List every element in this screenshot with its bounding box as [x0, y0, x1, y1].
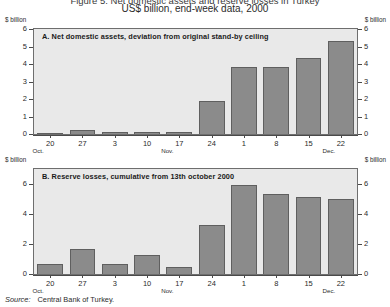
y-tick-label: 3 — [23, 78, 27, 86]
x-tick — [147, 135, 148, 138]
y-tick-label: 4 — [364, 210, 368, 218]
x-tick-label: 17 — [175, 140, 183, 148]
y-tick-label: 0 — [364, 130, 368, 138]
y-tick-label: 0 — [23, 270, 27, 278]
y-tick — [358, 244, 362, 245]
x-tick — [179, 135, 180, 138]
bar — [231, 67, 257, 134]
y-tick — [358, 117, 362, 118]
y-tick — [29, 184, 33, 185]
x-tick — [147, 275, 148, 278]
x-tick-label: 22 — [337, 280, 345, 288]
y-tick-label: 5 — [364, 43, 368, 51]
x-tick-label: 8 — [274, 280, 278, 288]
panel-a-bars — [34, 29, 357, 134]
x-month-label: Oct. — [32, 288, 43, 294]
x-month-label: Nov. — [161, 288, 173, 294]
bar — [199, 225, 225, 275]
y-tick — [29, 214, 33, 215]
y-tick — [29, 64, 33, 65]
x-tick — [244, 275, 245, 278]
source-value: Central Bank of Turkey. — [37, 295, 114, 304]
x-tick-label: 3 — [113, 280, 117, 288]
bar — [263, 67, 289, 134]
x-month-label: Nov. — [161, 148, 173, 154]
x-tick-label: 27 — [78, 280, 86, 288]
panel-b-x-axis: 20273101724181522Oct.Nov.Dec. — [33, 275, 358, 297]
y-tick-label: 2 — [23, 95, 27, 103]
bar — [70, 130, 96, 134]
x-tick — [179, 275, 180, 278]
bar — [70, 249, 96, 274]
y-tick-label: 0 — [364, 270, 368, 278]
panel-a-net-domestic-assets: A. Net domestic assets, deviation from o… — [33, 28, 358, 135]
bar — [102, 264, 128, 275]
x-tick — [115, 135, 116, 138]
x-tick-label: 10 — [143, 140, 151, 148]
bar — [263, 194, 289, 274]
unit-label-b-right: $ billion — [365, 156, 386, 163]
x-tick — [50, 135, 51, 138]
bar — [166, 132, 192, 134]
y-tick-label: 1 — [364, 113, 368, 121]
figure-subtitle: US$ billion, end-week data, 2000 — [0, 3, 390, 14]
panel-b-bars — [34, 169, 357, 274]
bar — [166, 267, 192, 274]
unit-label-b-left: $ billion — [5, 156, 26, 163]
x-tick-label: 17 — [175, 280, 183, 288]
bar — [296, 58, 322, 134]
panel-b-y-axis-right: 0246 — [358, 168, 390, 275]
x-tick-label: 1 — [242, 280, 246, 288]
x-tick-label: 15 — [304, 140, 312, 148]
bar — [328, 199, 354, 274]
x-tick-label: 1 — [242, 140, 246, 148]
bar — [296, 197, 322, 274]
x-tick — [82, 275, 83, 278]
x-tick — [341, 275, 342, 278]
bar — [134, 255, 160, 275]
x-tick — [276, 135, 277, 138]
x-tick-label: 20 — [46, 140, 54, 148]
y-tick — [29, 99, 33, 100]
bar — [199, 101, 225, 134]
y-tick-label: 5 — [23, 43, 27, 51]
y-tick-label: 4 — [364, 60, 368, 68]
bar — [328, 41, 354, 134]
x-tick — [115, 275, 116, 278]
bar — [37, 133, 63, 134]
panel-a-x-axis: 20273101724181522Oct.Nov.Dec. — [33, 135, 358, 157]
y-tick — [358, 134, 362, 135]
y-tick — [358, 82, 362, 83]
y-tick-label: 2 — [364, 95, 368, 103]
x-tick — [244, 135, 245, 138]
y-tick — [358, 64, 362, 65]
x-tick-label: 24 — [207, 280, 215, 288]
x-tick-label: 20 — [46, 280, 54, 288]
y-tick-label: 1 — [23, 113, 27, 121]
y-tick-label: 3 — [364, 78, 368, 86]
bar — [37, 264, 63, 275]
y-tick — [29, 117, 33, 118]
y-tick — [29, 244, 33, 245]
y-tick — [358, 184, 362, 185]
x-tick — [212, 275, 213, 278]
y-tick-label: 6 — [23, 180, 27, 188]
x-tick-label: 15 — [304, 280, 312, 288]
x-tick — [341, 135, 342, 138]
y-tick-label: 6 — [364, 25, 368, 33]
panel-b-y-axis-left: 0246 — [0, 168, 33, 275]
x-month-label: Dec. — [322, 148, 335, 154]
x-tick-label: 10 — [143, 280, 151, 288]
source-keyword: Source: — [5, 295, 30, 304]
x-tick-label: 27 — [78, 140, 86, 148]
y-tick — [29, 82, 33, 83]
x-month-label: Dec. — [322, 288, 335, 294]
y-tick-label: 0 — [23, 130, 27, 138]
panel-b-reserve-losses: B. Reserve losses, cumulative from 13th … — [33, 168, 358, 275]
source-note: Source:Central Bank of Turkey. — [5, 295, 114, 304]
x-tick-label: 8 — [274, 140, 278, 148]
unit-label-a-right: $ billion — [365, 16, 386, 23]
y-tick — [358, 47, 362, 48]
y-tick-label: 2 — [364, 240, 368, 248]
y-tick — [358, 29, 362, 30]
